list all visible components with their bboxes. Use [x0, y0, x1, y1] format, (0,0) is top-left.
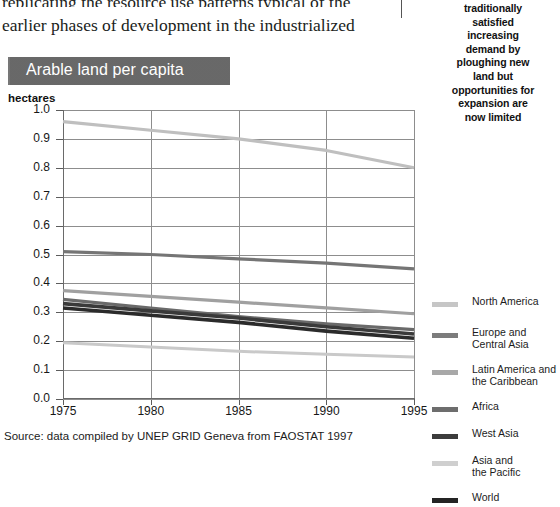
series-line [63, 343, 414, 357]
x-axis-tick-label: 1980 [121, 404, 181, 418]
y-axis-tick-label: 0.7 [8, 189, 50, 203]
gridline-horizontal [63, 399, 414, 400]
legend-swatch [432, 370, 458, 375]
chart-source-note: Source: data compiled by UNEP GRID Genev… [4, 430, 353, 442]
y-axis-tick-label: 0.2 [8, 333, 50, 347]
legend-item[interactable]: West Asia [432, 430, 556, 456]
series-line [63, 122, 414, 168]
legend-item[interactable]: Africa [432, 403, 556, 429]
y-axis-tick-label: 0.6 [8, 218, 50, 232]
pullquote-line: satisfied [434, 16, 552, 30]
y-axis-tick-mark [56, 139, 63, 140]
gridline-vertical [414, 110, 415, 399]
legend-label: Latin America andthe Caribbean [472, 364, 558, 387]
legend-label: World [472, 492, 558, 504]
prose-line: replicating the resource use patterns ty… [2, 0, 398, 7]
legend-item[interactable]: Latin America andthe Caribbean [432, 366, 556, 392]
legend-item[interactable]: North America [432, 298, 556, 324]
plot-area [63, 110, 414, 399]
legend-swatch [432, 302, 458, 307]
y-axis-tick-mark [56, 168, 63, 169]
x-axis-tick-label: 1985 [209, 404, 269, 418]
legend-label: Asia andthe Pacific [472, 455, 558, 478]
legend-swatch [432, 333, 458, 338]
pullquote-divider-rule [401, 0, 402, 18]
y-axis-tick-mark [56, 370, 63, 371]
y-axis-tick-label: 0.1 [8, 362, 50, 376]
y-axis-tick-mark [56, 312, 63, 313]
legend-label: Africa [472, 401, 558, 413]
prose-line: earlier phases of development in the ind… [2, 13, 398, 37]
series-line [63, 252, 414, 269]
series-line [63, 291, 414, 314]
pullquote-line: increasing [434, 29, 552, 43]
chart-series-lines [63, 110, 414, 399]
legend-label: North America [472, 296, 558, 308]
chart-title-banner: Arable land per capita [8, 57, 230, 85]
series-line [63, 308, 414, 338]
y-axis-tick-mark [56, 283, 63, 284]
series-line [63, 304, 414, 334]
y-axis-tick-mark [56, 110, 63, 111]
x-axis-tick-label: 1975 [33, 404, 93, 418]
legend-item[interactable]: World [432, 494, 556, 507]
article-body-text: replicating the resource use patterns ty… [2, 0, 398, 37]
y-axis-tick-label: 0.4 [8, 275, 50, 289]
legend-label: Europe andCentral Asia [472, 327, 558, 350]
y-axis-tick-label: 0.0 [8, 391, 50, 405]
legend-label: West Asia [472, 428, 558, 440]
series-line [63, 299, 414, 329]
legend-swatch [432, 461, 458, 466]
chart-figure: Arable land per capita hectares 0.00.10.… [0, 52, 560, 458]
y-axis-tick-label: 1.0 [8, 102, 50, 116]
legend-item[interactable]: Asia andthe Pacific [432, 457, 556, 483]
legend-swatch [432, 407, 458, 412]
x-axis-tick-label: 1990 [296, 404, 356, 418]
y-axis-tick-label: 0.5 [8, 247, 50, 261]
y-axis-tick-mark [56, 226, 63, 227]
y-axis-tick-label: 0.9 [8, 131, 50, 145]
y-axis-tick-mark [56, 255, 63, 256]
legend-item[interactable]: Europe andCentral Asia [432, 329, 556, 355]
y-axis-tick-mark [56, 399, 63, 400]
y-axis-tick-label: 0.3 [8, 304, 50, 318]
legend-swatch [432, 498, 458, 503]
pullquote-line: traditionally [434, 2, 552, 16]
y-axis-tick-label: 0.8 [8, 160, 50, 174]
x-axis-tick-mark [414, 399, 415, 405]
legend-swatch [432, 434, 458, 439]
y-axis-tick-mark [56, 197, 63, 198]
y-axis-tick-mark [56, 341, 63, 342]
page-title: Arable land per capita [26, 61, 184, 79]
